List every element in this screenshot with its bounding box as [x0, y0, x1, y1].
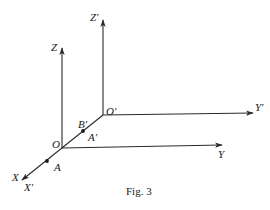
label-z-prime: Z′ [90, 12, 99, 23]
label-y-prime: Y′ [255, 102, 264, 113]
label-a-prime: A′ [88, 132, 97, 143]
label-o: O [52, 139, 60, 150]
point-a [45, 159, 49, 163]
label-b-prime: B′ [78, 119, 87, 130]
y-prime-axis [103, 113, 253, 115]
figure-caption: Fig. 3 [126, 186, 152, 197]
y-axis [62, 145, 222, 148]
coordinate-frames-diagram [0, 0, 270, 210]
label-z: Z [51, 42, 57, 53]
label-a: A [54, 162, 61, 173]
label-x: X [12, 172, 19, 183]
label-y: Y [218, 149, 224, 160]
label-o-prime: O′ [106, 106, 116, 117]
label-x-prime: X′ [24, 182, 33, 193]
